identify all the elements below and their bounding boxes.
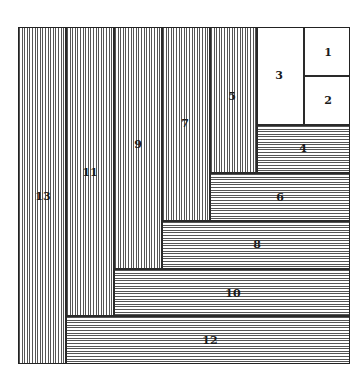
tile-label-2: 2 [324, 95, 332, 106]
tile-label-6: 6 [276, 192, 284, 203]
tile-label-12: 12 [202, 335, 217, 346]
spiral-tiling-diagram: 12345678910111213 [0, 0, 364, 387]
tile-label-5: 5 [228, 91, 236, 102]
tile-label-3: 3 [275, 70, 283, 81]
tile-label-11: 11 [82, 167, 97, 178]
tile-label-13: 13 [35, 191, 50, 202]
tile-label-4: 4 [299, 143, 307, 154]
tile-label-8: 8 [253, 239, 261, 250]
tile-label-9: 9 [134, 139, 142, 150]
tile-label-7: 7 [181, 118, 189, 129]
tile-label-10: 10 [225, 288, 240, 299]
tile-label-1: 1 [324, 47, 332, 58]
